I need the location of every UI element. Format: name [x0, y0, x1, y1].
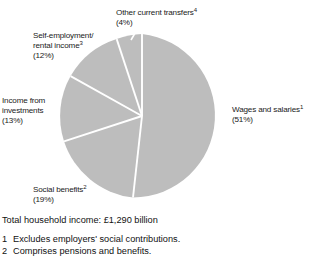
label-self-employment-line1: Self-employment/	[33, 31, 93, 41]
slice-wages-and-salaries	[133, 34, 215, 198]
footnote-1-text: Excludes employers' social contributions…	[13, 234, 180, 244]
label-income-from-investments: Income from investments (13%)	[2, 96, 45, 127]
label-self-employment-line2: rental income3	[33, 41, 93, 51]
label-other-current-transfers: Other current transfers4 (4%)	[116, 8, 197, 28]
total-household-income: Total household income: £1,290 billion	[2, 214, 158, 226]
footnote-2-number: 2	[2, 245, 13, 257]
footnote-2: 2Comprises pensions and benefits.	[2, 245, 151, 257]
label-wages-pct: (51%)	[232, 115, 303, 125]
label-other-current-transfers-pct: (4%)	[116, 18, 197, 28]
footnote-1: 1Excludes employers' social contribution…	[2, 233, 180, 245]
label-investments-line1: Income from	[2, 96, 45, 106]
footnote-marker-3: 3	[79, 41, 82, 47]
footnote-marker-4: 4	[194, 7, 197, 13]
label-other-current-transfers-text: Other current transfers4	[116, 8, 197, 18]
footnote-2-text: Comprises pensions and benefits.	[13, 246, 151, 256]
label-self-employment-rental-income: Self-employment/ rental income3 (12%)	[33, 31, 93, 62]
label-social-benefits: Social benefits2 (19%)	[33, 185, 86, 205]
label-wages-and-salaries: Wages and salaries1 (51%)	[232, 105, 303, 125]
label-social-benefits-pct: (19%)	[33, 195, 86, 205]
label-wages-text: Wages and salaries1	[232, 105, 303, 115]
label-investments-pct: (13%)	[2, 116, 45, 126]
footnote-marker-1: 1	[300, 104, 303, 110]
label-investments-line2: investments	[2, 106, 45, 116]
footnote-1-number: 1	[2, 233, 13, 245]
footnote-marker-2: 2	[83, 184, 86, 190]
label-social-benefits-text: Social benefits2	[33, 185, 86, 195]
label-self-employment-pct: (12%)	[33, 51, 93, 61]
